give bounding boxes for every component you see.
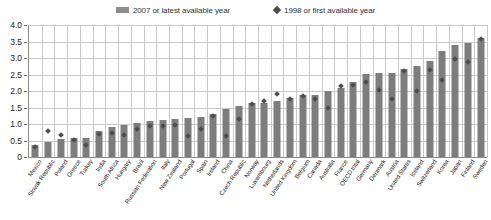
bar-series <box>29 25 487 157</box>
diamond-swatch-icon <box>273 6 281 14</box>
bar-group <box>54 25 67 157</box>
bar-group <box>80 25 93 157</box>
y-axis-tick-label: 0 <box>17 152 22 162</box>
bar-swatch-icon <box>116 7 129 13</box>
bar <box>439 51 446 157</box>
bar <box>337 88 344 157</box>
bar-group <box>283 25 296 157</box>
bar <box>45 142 52 157</box>
bar-group <box>360 25 373 157</box>
bar-group <box>156 25 169 157</box>
bar <box>401 69 408 157</box>
y-axis-tick-label: 2.0 <box>10 86 22 96</box>
bar-group <box>245 25 258 157</box>
bar-group <box>398 25 411 157</box>
bar <box>274 101 281 157</box>
bar-group <box>334 25 347 157</box>
bar <box>388 73 395 157</box>
bar-group <box>67 25 80 157</box>
bar-group <box>144 25 157 157</box>
y-axis-tick <box>24 75 27 76</box>
bar-group <box>194 25 207 157</box>
bar <box>477 38 484 157</box>
data-point-marker <box>274 91 280 97</box>
bar <box>261 103 268 157</box>
bar <box>57 139 64 157</box>
bar <box>210 114 217 157</box>
bar-group <box>423 25 436 157</box>
bar <box>452 45 459 157</box>
bar-group <box>462 25 475 157</box>
bar-group <box>182 25 195 157</box>
y-axis-tick <box>24 91 27 92</box>
bar <box>197 117 204 157</box>
bar <box>248 103 255 157</box>
y-axis-tick-label: 0.5 <box>10 136 22 146</box>
bar <box>324 91 331 157</box>
y-axis-tick <box>24 141 27 142</box>
bar-group <box>449 25 462 157</box>
bar <box>312 95 319 157</box>
bar-group <box>385 25 398 157</box>
bar-group <box>220 25 233 157</box>
y-axis-tick <box>24 108 27 109</box>
plot-area <box>28 25 487 158</box>
y-axis-tick <box>24 42 27 43</box>
legend-label-1998: 1998 or first available year <box>284 6 375 15</box>
y-axis-tick <box>24 124 27 125</box>
bar-group <box>105 25 118 157</box>
bar-group <box>373 25 386 157</box>
bar-group <box>29 25 42 157</box>
bar-group <box>258 25 271 157</box>
bar-group <box>233 25 246 157</box>
bar-group <box>436 25 449 157</box>
bar <box>121 125 128 157</box>
y-axis-tick <box>24 58 27 59</box>
bar-group <box>271 25 284 157</box>
bar-group <box>474 25 487 157</box>
bar <box>375 73 382 157</box>
legend-item-2007: 2007 or latest available year <box>116 6 230 15</box>
bar-group <box>118 25 131 157</box>
bar-group <box>411 25 424 157</box>
bar <box>363 74 370 157</box>
y-axis: 00.51.01.52.02.53.03.54.0 <box>0 25 26 157</box>
y-axis-tick-label: 1.0 <box>10 119 22 129</box>
legend-label-2007: 2007 or latest available year <box>133 6 230 15</box>
x-axis-tick-label: Korea <box>436 158 451 175</box>
bar-group <box>131 25 144 157</box>
chart-container: 2007 or latest available year 1998 or fi… <box>0 0 491 220</box>
bar-group <box>347 25 360 157</box>
bar <box>426 61 433 157</box>
bar-group <box>296 25 309 157</box>
bar <box>286 98 293 157</box>
chart-legend: 2007 or latest available year 1998 or fi… <box>0 3 491 17</box>
bar-group <box>93 25 106 157</box>
y-axis-tick-label: 1.5 <box>10 103 22 113</box>
y-axis-tick-label: 2.5 <box>10 70 22 80</box>
bar-group <box>169 25 182 157</box>
gridline-vertical <box>487 25 488 157</box>
bar-group <box>42 25 55 157</box>
bar <box>299 95 306 157</box>
y-axis-tick <box>24 25 27 26</box>
y-axis-tick-label: 3.5 <box>10 37 22 47</box>
legend-item-1998: 1998 or first available year <box>274 6 375 15</box>
y-axis-tick-label: 3.0 <box>10 53 22 63</box>
bar <box>414 66 421 157</box>
bar <box>350 82 357 157</box>
data-point-marker <box>45 128 51 134</box>
bar-group <box>309 25 322 157</box>
data-point-marker <box>58 132 64 138</box>
y-axis-tick-label: 4.0 <box>10 20 22 30</box>
y-axis-tick <box>24 157 27 158</box>
bar <box>235 106 242 157</box>
bar-group <box>207 25 220 157</box>
x-axis-labels: MexicoSlovak RepublicPolandGreeceTurkeyI… <box>28 158 486 220</box>
bar-group <box>322 25 335 157</box>
